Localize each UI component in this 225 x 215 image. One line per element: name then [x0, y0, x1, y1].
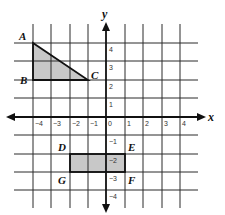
- x-axis-right-arrow-icon: [197, 113, 206, 121]
- y-axis-down-arrow-icon: [102, 204, 110, 213]
- y-tick-label: 3: [109, 64, 113, 71]
- x-axis-left-arrow-icon: [6, 113, 15, 121]
- point-label-c: C: [91, 69, 99, 81]
- y-tick-label: −2: [109, 157, 117, 164]
- y-axis-up-arrow-icon: [102, 22, 110, 31]
- x-axis-label: x: [207, 110, 214, 124]
- point-label-a: A: [18, 30, 26, 42]
- x-tick-label: 0: [108, 120, 112, 127]
- y-tick-label: 2: [109, 83, 113, 90]
- x-tick-label: 2: [145, 120, 149, 127]
- coordinate-grid: x y −4 −3 −2 −1 0 1 2 3 4 4 3 2 1 −1 −2 …: [0, 0, 225, 215]
- y-tick-label: −4: [109, 193, 117, 200]
- y-tick-label: 4: [109, 46, 113, 53]
- x-tick-label: 4: [182, 120, 186, 127]
- point-label-d: D: [57, 141, 66, 153]
- point-label-b: B: [19, 74, 27, 86]
- y-axis-label: y: [100, 7, 108, 21]
- point-label-e: E: [127, 141, 135, 153]
- x-tick-label: 1: [127, 120, 131, 127]
- x-tick-label: −1: [90, 120, 98, 127]
- y-tick-label: −3: [109, 175, 117, 182]
- x-tick-label: −3: [53, 120, 61, 127]
- x-tick-label: −4: [35, 120, 43, 127]
- x-tick-label: −2: [72, 120, 80, 127]
- y-tick-label: 1: [109, 101, 113, 108]
- x-tick-label: 3: [164, 120, 168, 127]
- point-label-f: F: [127, 174, 136, 186]
- y-tick-label: −1: [109, 138, 117, 145]
- point-label-g: G: [58, 174, 66, 186]
